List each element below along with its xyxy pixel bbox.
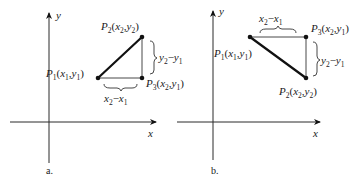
label-x-difference: x2−x1 [258,12,283,27]
point-p2 [304,76,309,81]
point-p2 [140,35,145,40]
panel-b: y x x2−x1 P3(x2,y1) P1(x1,y1) y2−y1 P2(x… [177,5,349,176]
y-axis-label: y [55,9,61,21]
label-y-difference: y2−y1 [320,54,345,69]
segment-p1-p2 [98,37,142,78]
label-p1: P1(x1,y1) [213,47,252,62]
panel-a: y x P2(x2,y2) P1(x1,y1) P3(x2,y1) y2−y1 … [10,9,184,176]
point-p1 [248,35,253,40]
label-p1: P1(x1,y1) [45,67,84,82]
horizontal-brace [260,26,296,33]
label-p3: P3(x2,y1) [145,77,184,92]
label-p2: P2(x2,y2) [100,20,139,35]
x-axis-label: x [147,127,153,139]
distance-formula-figure: y x P2(x2,y2) P1(x1,y1) P3(x2,y1) y2−y1 … [0,0,354,184]
panel-b-caption: b. [211,165,219,176]
point-p3 [140,76,145,81]
label-p2: P2(x2,y2) [278,85,317,100]
vertical-brace [150,41,157,74]
horizontal-brace [104,84,137,91]
vertical-brace [313,42,320,76]
point-p1 [96,76,101,81]
label-y-difference: y2−y1 [158,51,183,66]
panel-a-caption: a. [46,165,53,176]
x-axis-label: x [312,127,318,139]
segment-p1-p2 [250,37,306,78]
label-x-difference: x2−x1 [103,92,128,107]
point-p3 [304,35,309,40]
y-axis-label: y [218,5,224,17]
label-p3: P3(x2,y1) [310,22,349,37]
